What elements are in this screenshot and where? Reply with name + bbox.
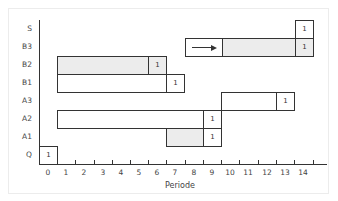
tick-10: [221, 160, 222, 164]
tick-label-7: 7: [166, 168, 184, 177]
tick-label-12: 12: [258, 168, 276, 177]
row-label-a3: A3: [10, 92, 32, 110]
cell-b1-7: 1: [166, 74, 185, 93]
bar-b2-shaded: [57, 56, 149, 75]
row-label-b1: B1: [10, 74, 32, 92]
tick-label-10: 10: [221, 168, 239, 177]
tick-2: [75, 160, 76, 164]
x-axis-label: Periode: [150, 181, 210, 190]
bar-b3-shaded: [222, 38, 296, 57]
row-label-q: Q: [10, 146, 32, 164]
arrow-line: [192, 47, 212, 48]
row-label-a2: A2: [10, 110, 32, 128]
tick-5: [130, 160, 131, 164]
cell-a2-9: 1: [203, 110, 222, 129]
bar-a3: [221, 92, 277, 111]
tick-1: [57, 160, 58, 164]
tick-4: [112, 160, 113, 164]
tick-label-0: 0: [39, 168, 57, 177]
cell-q-0: 1: [39, 146, 58, 165]
y-axis: [39, 20, 40, 165]
tick-8: [185, 160, 186, 164]
row-label-s: S: [10, 20, 32, 38]
bar-a1-shaded: [166, 128, 204, 147]
tick-label-8: 8: [185, 168, 203, 177]
tick-label-1: 1: [57, 168, 75, 177]
cell-a1-9: 1: [203, 128, 222, 147]
cell-a3-13: 1: [276, 92, 295, 111]
tick-14: [294, 160, 295, 164]
tick-7: [166, 160, 167, 164]
tick-6: [148, 160, 149, 164]
bar-a2: [57, 110, 204, 129]
tick-9: [203, 160, 204, 164]
row-label-b3: B3: [10, 38, 32, 56]
cell-b3-14: 1: [295, 38, 314, 57]
bar-b1: [57, 74, 167, 93]
tick-label-11: 11: [239, 168, 257, 177]
tick-label-6: 6: [148, 168, 166, 177]
cell-b2-6: 1: [148, 56, 167, 75]
tick-15: [313, 160, 314, 164]
row-label-b2: B2: [10, 56, 32, 74]
tick-12: [258, 160, 259, 164]
x-axis: [39, 164, 327, 165]
cell-s-14: 1: [295, 20, 314, 39]
row-label-a1: A1: [10, 128, 32, 146]
tick-label-9: 9: [203, 168, 221, 177]
tick-label-2: 2: [75, 168, 93, 177]
tick-label-13: 13: [276, 168, 294, 177]
tick-3: [94, 160, 95, 164]
tick-13: [276, 160, 277, 164]
tick-label-3: 3: [94, 168, 112, 177]
tick-label-14: 14: [294, 168, 312, 177]
tick-11: [239, 160, 240, 164]
tick-label-4: 4: [112, 168, 130, 177]
tick-label-5: 5: [130, 168, 148, 177]
arrow-right-icon: [211, 45, 217, 51]
